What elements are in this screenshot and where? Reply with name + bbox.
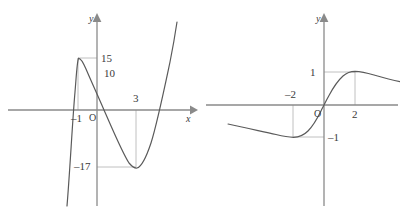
y-axis-label-left: y — [88, 13, 94, 24]
x-axis-arrow-left — [190, 106, 198, 115]
left-graph: 15 10 –17 –1 3 O y x — [0, 0, 200, 214]
label-y-15: 15 — [101, 52, 113, 64]
figure-container: 15 10 –17 –1 3 O y x 1 –1 –2 2 O y — [0, 0, 400, 214]
label-y-neg1: –1 — [327, 131, 339, 143]
label-y-10: 10 — [104, 67, 116, 79]
label-x-neg1: –1 — [70, 112, 82, 124]
label-x-2: 2 — [352, 108, 358, 120]
label-y-1: 1 — [310, 66, 316, 78]
y-axis-arrow-right — [320, 13, 329, 22]
cubic-curve — [67, 22, 177, 206]
label-x-3: 3 — [133, 92, 139, 104]
label-y-neg17: –17 — [73, 160, 91, 172]
y-axis-label-right: y — [315, 13, 321, 24]
origin-label-left: O — [89, 112, 96, 123]
origin-label-right: O — [314, 108, 321, 119]
y-axis-arrow-left — [93, 13, 102, 22]
label-x-neg2: –2 — [284, 88, 296, 100]
x-axis-label-left: x — [185, 113, 191, 124]
right-graph: 1 –1 –2 2 O y — [200, 0, 400, 214]
